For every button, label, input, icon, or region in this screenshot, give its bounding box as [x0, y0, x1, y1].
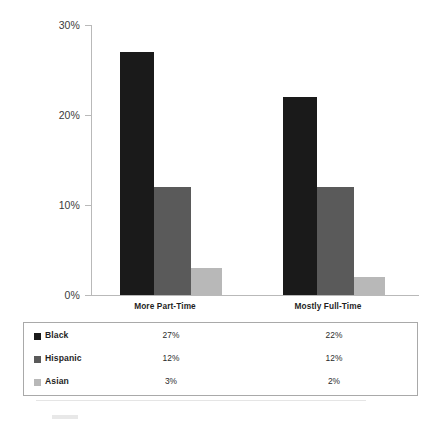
table-cell-asian-more-part-time: 3% — [141, 376, 201, 386]
y-tick-mark-0 — [85, 295, 91, 296]
bar-hispanic-mostly-full-time — [317, 187, 354, 295]
table-cell-hispanic-mostly-full-time: 12% — [304, 353, 364, 363]
y-tick-label-10: 10% — [59, 200, 80, 211]
table-cell-black-mostly-full-time: 22% — [304, 330, 364, 340]
bar-black-more-part-time — [120, 52, 154, 295]
legend-swatch-hispanic — [34, 356, 41, 363]
bar-hispanic-more-part-time — [154, 187, 191, 295]
x-category-label-mostly-full-time: Mostly Full-Time — [273, 301, 383, 311]
bar-chart-figure: 30% 20% 10% 0% More Part-Time Mostly Ful… — [0, 0, 439, 424]
page-scan-artifact-mark — [52, 415, 78, 419]
table-row: Asian 3% 2% — [24, 372, 417, 394]
bar-asian-more-part-time — [191, 268, 222, 295]
page-scan-artifact-line — [36, 400, 366, 401]
y-tick-label-0: 0% — [65, 290, 80, 301]
x-category-label-more-part-time: More Part-Time — [110, 301, 220, 311]
bar-asian-mostly-full-time — [354, 277, 385, 295]
bar-black-mostly-full-time — [283, 97, 317, 295]
y-tick-label-30: 30% — [59, 20, 80, 31]
legend-swatch-black — [34, 333, 41, 340]
plot-area — [91, 25, 418, 295]
legend-swatch-asian — [34, 379, 41, 386]
y-tick-label-20: 20% — [59, 110, 80, 121]
legend-data-table: Black 27% 22% Hispanic 12% 12% Asian 3% … — [23, 322, 418, 396]
legend-label-hispanic: Hispanic — [45, 353, 82, 363]
legend-label-asian: Asian — [45, 376, 69, 386]
table-row: Hispanic 12% 12% — [24, 349, 417, 371]
table-cell-asian-mostly-full-time: 2% — [304, 376, 364, 386]
table-cell-hispanic-more-part-time: 12% — [141, 353, 201, 363]
x-axis-line — [91, 295, 419, 296]
table-row: Black 27% 22% — [24, 326, 417, 348]
legend-label-black: Black — [45, 330, 68, 340]
table-cell-black-more-part-time: 27% — [141, 330, 201, 340]
